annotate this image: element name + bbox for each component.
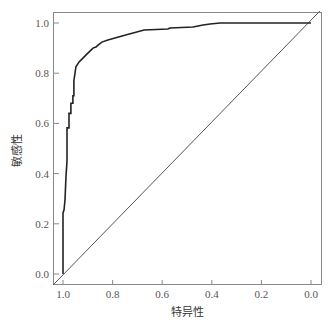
x-tick-label: 0.8	[106, 288, 120, 300]
y-tick-label: 0.6	[35, 117, 49, 129]
y-tick-label: 0.4	[35, 168, 49, 180]
x-tick-label: 0.2	[255, 288, 269, 300]
x-tick-label: 0.6	[155, 288, 169, 300]
y-tick-label: 0.8	[35, 67, 49, 79]
x-tick-label: 0.4	[205, 288, 219, 300]
background	[0, 0, 334, 329]
x-tick-label: 0.0	[304, 288, 318, 300]
y-tick-label: 1.0	[35, 17, 49, 29]
y-axis-title: 敏感性	[10, 134, 24, 167]
x-tick-label: 1.0	[56, 288, 70, 300]
y-tick-label: 0.0	[35, 268, 49, 280]
y-tick-label: 0.2	[35, 218, 49, 230]
roc-chart: 1.00.80.60.40.20.0 0.00.20.40.60.81.0 特异…	[0, 0, 334, 329]
x-axis-title: 特异性	[171, 305, 204, 319]
